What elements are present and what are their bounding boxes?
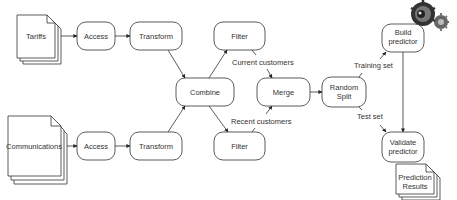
access-top-node[interactable]: Access — [77, 22, 115, 50]
edge-split-test-label — [359, 107, 362, 110]
build-predictor-label-2: predictor — [388, 37, 418, 46]
recent-customers-label: Recent customers — [231, 117, 292, 126]
communications-label: Communications — [6, 142, 62, 151]
edge-transform-combine-top — [168, 50, 185, 78]
random-split-label-2: Split — [337, 92, 353, 101]
transform-bottom-label: Transform — [139, 142, 173, 151]
communications-document[interactable]: Communications — [6, 116, 67, 184]
edge-combine-filter-top — [209, 50, 227, 78]
transform-top-label: Transform — [139, 32, 173, 41]
edge-filter-top-label — [252, 50, 256, 55]
validate-predictor-node[interactable]: Validate predictor — [382, 132, 424, 162]
edge-transform-combine-bottom — [168, 106, 185, 132]
training-set-label: Training set — [354, 61, 394, 70]
combine-label: Combine — [190, 88, 220, 97]
current-customers-label: Current customers — [232, 58, 294, 67]
transform-top-node[interactable]: Transform — [130, 22, 182, 50]
edge-split-training-label — [359, 73, 362, 77]
filter-bottom-node[interactable]: Filter — [214, 132, 265, 160]
filter-bottom-label: Filter — [231, 142, 248, 151]
access-top-label: Access — [84, 32, 108, 41]
validate-predictor-label-2: predictor — [388, 147, 418, 156]
merge-node[interactable]: Merge — [257, 78, 310, 106]
combine-node[interactable]: Combine — [176, 78, 234, 106]
filter-top-label: Filter — [231, 32, 248, 41]
build-predictor-label-1: Build — [395, 28, 412, 37]
workflow-diagram: Tariffs Communications Access Transform … — [0, 0, 457, 200]
edge-label-merge-top — [267, 69, 272, 78]
test-set-label: Test set — [357, 112, 384, 121]
build-predictor-node[interactable]: Build predictor — [382, 24, 424, 52]
random-split-label-1: Random — [330, 83, 358, 92]
merge-label: Merge — [273, 88, 294, 97]
prediction-results-label-1: Prediction — [398, 173, 431, 182]
prediction-results-label-2: Results — [402, 182, 427, 191]
prediction-results-document[interactable]: Prediction Results — [396, 164, 440, 200]
edge-filter-bottom-label — [252, 128, 255, 132]
access-bottom-label: Access — [84, 142, 108, 151]
access-bottom-node[interactable]: Access — [77, 132, 115, 160]
tariffs-document[interactable]: Tariffs — [17, 15, 61, 64]
edge-combine-filter-bottom — [209, 106, 228, 132]
transform-bottom-node[interactable]: Transform — [130, 132, 182, 160]
edge-training-build — [380, 52, 386, 59]
random-split-node[interactable]: Random Split — [322, 77, 366, 107]
tariffs-label: Tariffs — [26, 32, 46, 41]
edge-label-merge-bottom — [266, 106, 272, 114]
edge-test-validate — [380, 125, 386, 132]
validate-predictor-label-1: Validate — [390, 138, 417, 147]
filter-top-node[interactable]: Filter — [214, 22, 265, 50]
